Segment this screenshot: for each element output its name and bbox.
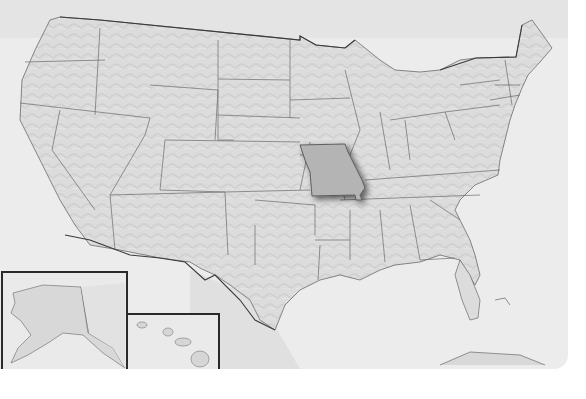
us-map <box>0 0 568 369</box>
cuba <box>440 352 545 365</box>
alaska-map <box>3 273 128 369</box>
hawaii-inset <box>126 313 220 369</box>
hawaii-map <box>128 315 220 369</box>
bahamas <box>495 298 510 305</box>
alaska-inset <box>1 271 128 369</box>
